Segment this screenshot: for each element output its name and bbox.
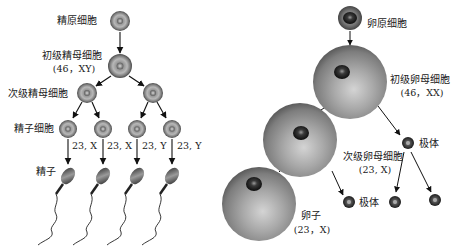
spermatid-cell <box>59 120 77 138</box>
sperm-icon <box>142 165 182 245</box>
polar-body-icon <box>402 137 414 149</box>
chromosome-label: 23, Y <box>177 140 201 152</box>
ovum-karyotype: (23，X) <box>289 224 335 236</box>
primary-oocyte-cell <box>313 45 387 119</box>
polar-body-icon <box>389 196 401 208</box>
spermatogonium-cell <box>110 11 130 31</box>
chromosome-label: 23, Y <box>142 140 166 152</box>
chromosome-label: 23, X <box>72 140 97 152</box>
secondary-spermatocyte-cell <box>77 83 97 103</box>
ovum-label: 卵子 <box>296 210 326 222</box>
gametogenesis-diagram: 精原细胞 初级精母细胞 (46，XY) 次级精母细胞 精子细胞 23, X 23… <box>0 0 455 252</box>
primary-oocyte-karyotype: (46，XX) <box>392 87 452 99</box>
spermatid-cell <box>163 120 181 138</box>
spermatid-cell <box>94 120 112 138</box>
sperm-icon <box>107 165 147 245</box>
oogonium-label: 卵原细胞 <box>367 18 407 30</box>
spermatogonium-label: 精原细胞 <box>57 15 97 27</box>
secondary-spermatocyte-label: 次级精母细胞 <box>8 88 68 100</box>
primary-spermatocyte-label: 初级精母细胞 <box>40 50 104 62</box>
secondary-oocyte-label: 次级卵母细胞 <box>340 151 406 163</box>
polar-body-label: 极体 <box>419 138 439 150</box>
polar-body-icon <box>343 196 355 208</box>
secondary-spermatocyte-cell <box>143 83 163 103</box>
ovum-cell <box>222 167 296 241</box>
sperm-icon <box>73 165 113 245</box>
sperm-label: 精子 <box>36 166 56 178</box>
primary-spermatocyte-karyotype: (46，XY) <box>44 63 104 75</box>
polar-body-label: 极体 <box>359 197 379 209</box>
primary-oocyte-label: 初级卵母细胞 <box>388 74 452 86</box>
primary-spermatocyte-cell <box>108 54 132 78</box>
spermatid-cell <box>128 120 146 138</box>
polar-body-icon <box>429 194 441 206</box>
chromosome-label: 23, X <box>107 140 132 152</box>
secondary-oocyte-cell <box>263 103 337 177</box>
secondary-oocyte-karyotype: (23, X) <box>350 164 400 176</box>
spermatid-label: 精子细胞 <box>14 123 54 135</box>
oogonium-cell <box>338 6 362 30</box>
